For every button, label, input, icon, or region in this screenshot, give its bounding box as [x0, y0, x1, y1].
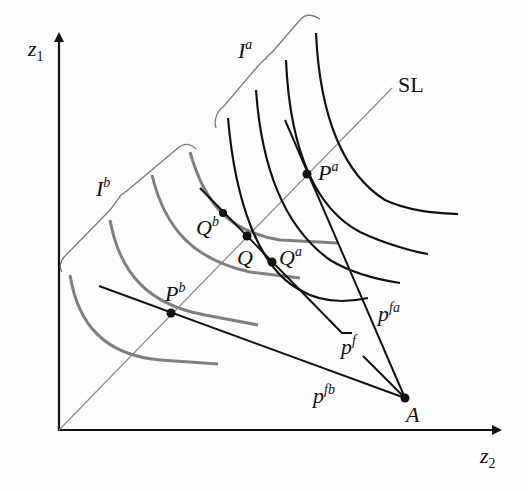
q-label: Q	[237, 247, 253, 269]
qa-letter: Q	[279, 245, 295, 270]
pa-letter: P	[318, 160, 331, 185]
qb-superscript: b	[212, 214, 219, 229]
ia-curve-4	[316, 33, 458, 214]
point-pa	[303, 170, 312, 179]
pb-label: Pb	[165, 283, 185, 305]
z2-axis-label: z2	[480, 445, 496, 467]
diagram-canvas: z1 z2 SL Ia Ib Pa Pb Qb Q Qa A pfa pf pf…	[0, 0, 528, 490]
point-q	[243, 232, 252, 241]
pa-label: Pa	[318, 162, 338, 184]
z2-subscript: 2	[489, 456, 496, 471]
z1-axis-label: z1	[28, 38, 44, 60]
pfb-letter: p	[313, 383, 324, 408]
z2-letter: z	[480, 443, 489, 468]
pfa-superscript: fa	[389, 300, 400, 315]
pbar-line-lower	[363, 356, 405, 398]
z1-subscript: 1	[37, 49, 44, 64]
a-label: A	[406, 404, 419, 426]
pb-superscript: b	[178, 280, 185, 295]
pa-superscript: a	[331, 159, 338, 174]
sl-line	[59, 88, 392, 430]
ib-brace	[60, 144, 196, 272]
ia-superscript: a	[245, 37, 252, 52]
point-pb	[167, 309, 176, 318]
qb-letter: Q	[196, 215, 212, 240]
ib-curve-2	[110, 220, 258, 325]
ib-superscript: b	[103, 175, 110, 190]
pfa-letter: p	[378, 301, 389, 326]
ia-label: Ia	[238, 40, 252, 62]
ia-curve-2	[256, 90, 400, 283]
qb-label: Qb	[196, 217, 219, 239]
qa-superscript: a	[295, 244, 302, 259]
pbar-label: pf	[341, 336, 356, 358]
a-letter: A	[406, 402, 419, 427]
pbar-letter: p	[341, 334, 352, 359]
pb-letter: P	[165, 281, 178, 306]
qa-label: Qa	[279, 247, 302, 269]
diagram-svg	[0, 0, 528, 490]
sl-label: SL	[398, 74, 424, 96]
q-letter: Q	[237, 245, 253, 270]
pbar-superscript: f	[352, 333, 356, 348]
pfa-label: pfa	[378, 303, 400, 325]
z1-letter: z	[28, 36, 37, 61]
point-qb	[219, 209, 227, 217]
ia-brace	[215, 15, 320, 128]
point-qa	[268, 258, 277, 267]
pfb-superscript: fb	[324, 382, 335, 397]
ib-label: Ib	[96, 178, 110, 200]
pfb-label: pfb	[313, 385, 335, 407]
